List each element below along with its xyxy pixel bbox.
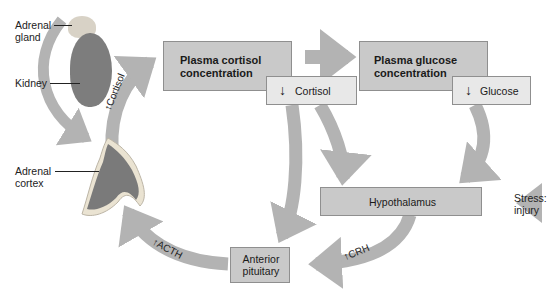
- label-adrenal-gland: Adrenal gland: [15, 19, 51, 43]
- adrenal-cortex-illustration: [78, 136, 148, 218]
- plasma-cortisol-label: Plasma cortisol concentration: [180, 54, 261, 80]
- cortisol-decrease-box: ↓ Cortisol: [266, 76, 357, 105]
- arrow-cortisol-to-hypothalamus: [320, 105, 343, 178]
- arrow-crh: [316, 215, 410, 264]
- plasma-glucose-label: Plasma glucose concentration: [374, 54, 457, 80]
- leader-kidney: [50, 83, 80, 84]
- down-arrow-icon: ↓: [279, 84, 286, 96]
- label-kidney: Kidney: [15, 77, 47, 89]
- leader-adrenal-gland: [54, 25, 72, 26]
- hypothalamus-box: Hypothalamus: [320, 187, 482, 216]
- anterior-pituitary-box: Anterior pituitary: [230, 247, 290, 283]
- down-arrow-icon: ↓: [465, 84, 472, 96]
- glucose-decrease-box: ↓ Glucose: [452, 76, 531, 105]
- label-adrenal-cortex: Adrenal cortex: [15, 165, 51, 189]
- leader-adrenal-cortex: [55, 171, 99, 172]
- stress-injury-label: Stress: injury: [514, 192, 547, 216]
- arrow-cortisol-to-pituitary: [282, 105, 296, 236]
- arrow-glucose-to-hypothalamus: [465, 105, 484, 178]
- anterior-pituitary-label: Anterior pituitary: [231, 253, 291, 277]
